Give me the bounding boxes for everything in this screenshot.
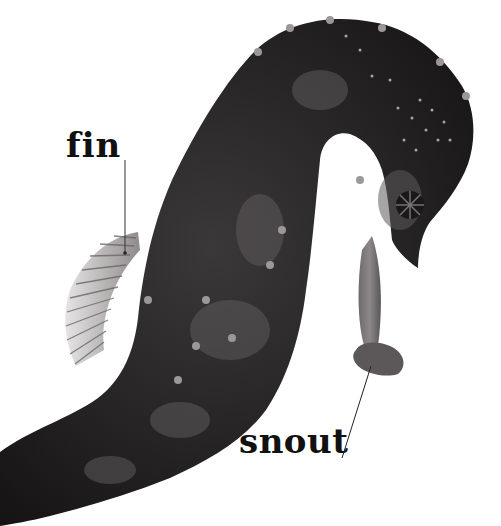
label-snout: snout bbox=[239, 424, 348, 458]
seahorse-snout bbox=[353, 236, 403, 376]
seahorse-eye bbox=[396, 191, 424, 219]
seahorse-body bbox=[0, 19, 473, 526]
fin-leader-dot bbox=[123, 251, 127, 255]
label-fin: fin bbox=[66, 128, 121, 162]
dorsal-fin bbox=[65, 232, 140, 366]
seahorse-figure: fin snout bbox=[0, 0, 501, 526]
